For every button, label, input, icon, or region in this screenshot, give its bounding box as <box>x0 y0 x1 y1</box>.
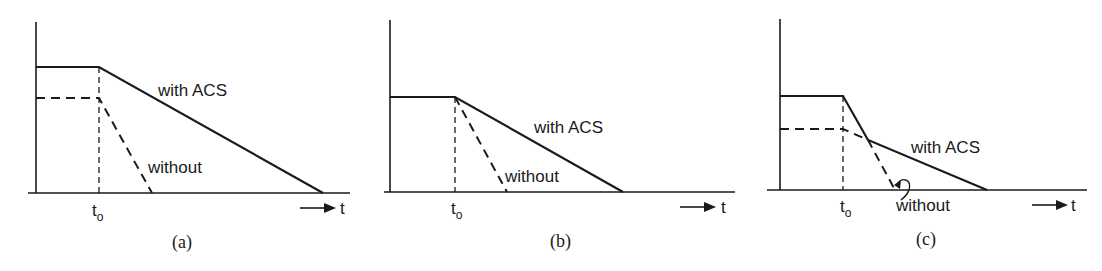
panel-a: with ACS without to t (a) <box>28 22 350 253</box>
panel-caption: (c) <box>916 229 936 250</box>
time-axis-label: t <box>721 198 726 217</box>
panel-c: with ACS without to t (c) <box>767 19 1087 250</box>
figure-canvas: with ACS without to t (a) with ACS witho… <box>0 0 1102 271</box>
time-arrow-icon <box>324 203 336 213</box>
panel-caption: (a) <box>172 232 192 253</box>
panel-b: with ACS without to t (b) <box>384 20 735 252</box>
time-axis-label: t <box>1071 196 1076 215</box>
without-line <box>36 98 152 193</box>
time-arrow-icon <box>1056 200 1068 210</box>
time-axis-label: t <box>340 199 345 218</box>
without-label: without <box>147 158 202 177</box>
t0-label: to <box>451 199 463 222</box>
with-acs-label: with ACS <box>157 81 227 100</box>
without-label: without <box>504 167 559 186</box>
panel-caption: (b) <box>550 231 571 252</box>
t0-label: to <box>92 201 104 224</box>
with-acs-label: with ACS <box>910 138 980 157</box>
without-line <box>780 129 895 190</box>
with-acs-label: with ACS <box>533 118 603 137</box>
t0-label: to <box>840 197 852 220</box>
time-arrow-icon <box>704 202 716 212</box>
pointer-arrowhead-icon <box>894 180 901 189</box>
